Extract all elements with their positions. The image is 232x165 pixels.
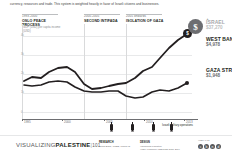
region-amount: $1,948	[206, 73, 232, 78]
bomb-fin	[170, 130, 173, 132]
bomb-body	[152, 124, 155, 130]
cc-label: VISUAL 11	[198, 139, 210, 142]
brand-bold: PALESTINE	[56, 142, 91, 148]
credit-design: DESIGN Visualizing Palestine VISUALIZING…	[140, 141, 196, 151]
region-label-gaza-strip: GAZA STRIP $1,948	[206, 68, 232, 79]
brand-logo[interactable]: VISUALIZINGPALESTINE|101	[16, 142, 101, 148]
cc-by-icon: b	[204, 144, 209, 149]
era-name: ISOLATION OF GAZA	[126, 19, 166, 23]
chart-lines	[22, 24, 192, 120]
x-tick-mark	[104, 119, 105, 121]
credit-body: Visualizing Palestine VISUALIZINGPALESTI…	[140, 145, 196, 151]
footer-divider	[0, 135, 232, 136]
x-tick-mark	[144, 119, 145, 121]
region-amount: $4,978	[206, 42, 232, 47]
x-tick-mark	[184, 119, 185, 121]
bomb-icon	[110, 122, 113, 132]
region-label-west-bank: WEST BANK $4,978	[206, 37, 232, 48]
era-rule	[126, 14, 162, 15]
era-column-intifada: 2000-2005 SECOND INTIFADA	[84, 15, 124, 23]
bomb-fin	[152, 130, 155, 132]
era-rule	[22, 14, 58, 15]
bomb-icon	[131, 122, 134, 132]
bomb-fin	[110, 130, 113, 132]
endpoint-marker-gaza-strip	[185, 81, 189, 85]
x-tick-mark	[62, 119, 63, 121]
series-line-gaza-strip	[24, 81, 187, 98]
bomb-body	[131, 124, 134, 130]
credit-research: RESEARCH World Bank, PCBS, UNCTAD	[99, 141, 145, 148]
cc-nc-icon: n	[210, 144, 215, 149]
chart-plot-area: GDP (USD) per capita income (USD) 4k 3k …	[22, 24, 192, 120]
x-tick-1995: 1995	[24, 120, 31, 124]
era-column-isolation: 2005 onwards ISOLATION OF GAZA	[126, 15, 166, 23]
x-tick-mark	[22, 119, 23, 121]
intro-paragraph: currency, resources and trade. This syst…	[10, 2, 210, 6]
region-amount: $37,270	[206, 25, 232, 30]
era-rule	[84, 14, 120, 15]
cc-icon: c	[198, 144, 203, 149]
brand-light: VISUALIZING	[16, 142, 56, 148]
credit-body: World Bank, PCBS, UNCTAD	[99, 145, 145, 148]
bomb-icon	[152, 122, 155, 132]
bomb-fin	[131, 130, 134, 132]
region-label-israel: ISRAEL $37,270	[206, 20, 232, 31]
cc-nd-icon: d	[216, 144, 221, 149]
bomb-body	[110, 124, 113, 130]
series-line-west-bank	[24, 34, 187, 89]
x-tick-2000: 2000	[64, 120, 71, 124]
era-name: SECOND INTIFADA	[84, 19, 124, 23]
creative-commons-icons[interactable]: c b n d	[198, 144, 221, 149]
bomb-annotation: Israeli military operations	[162, 124, 202, 128]
coin-icon: $	[188, 19, 203, 34]
